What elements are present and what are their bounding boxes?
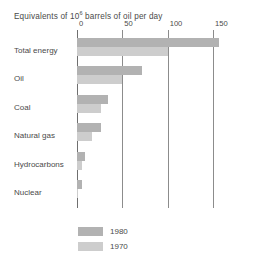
x-tick-label-150: 150 [213,19,228,28]
gridline-100 [168,30,169,208]
x-tick-label-50: 50 [122,19,132,28]
legend-item-1970: 1970 [78,239,128,254]
bar-coal-1970 [77,104,101,113]
chart-figure: Equivalents of 106 barrels of oil per da… [0,0,259,274]
bar-hydrocarbons-1970 [77,161,82,170]
bar-total-energy-1970 [77,47,168,56]
bar-hydrocarbons-1980 [77,152,85,161]
gridline-50 [122,30,123,208]
chart-legend: 19801970 [78,224,128,254]
category-label-oil: Oil [0,74,72,83]
legend-label-1970: 1970 [110,242,128,251]
category-label-coal: Coal [0,103,72,112]
plot-area: 050100150 [77,30,213,208]
bar-oil-1970 [77,75,122,84]
chart-title-base: Equivalents of 10 [14,12,79,21]
legend-item-1980: 1980 [78,224,128,239]
category-label-natural-gas: Natural gas [0,131,72,140]
bar-natural-gas-1970 [77,132,92,141]
legend-swatch-1980 [78,227,103,236]
bar-coal-1980 [77,95,108,104]
x-tick-label-0: 0 [77,19,83,28]
gridline-150 [213,30,214,208]
category-label-hydrocarbons: Hydrocarbons [0,160,72,169]
bar-oil-1980 [77,66,142,75]
bar-nuclear-1980 [77,180,82,189]
legend-label-1980: 1980 [110,227,128,236]
category-label-nuclear: Nuclear [0,188,72,197]
bar-natural-gas-1980 [77,123,101,132]
x-tick-label-100: 100 [168,19,183,28]
chart-title: Equivalents of 106 barrels of oil per da… [14,12,163,21]
legend-swatch-1970 [78,242,103,251]
bar-total-energy-1980 [77,38,219,47]
category-label-total-energy: Total energy [0,46,72,55]
bar-nuclear-1970 [77,189,78,198]
